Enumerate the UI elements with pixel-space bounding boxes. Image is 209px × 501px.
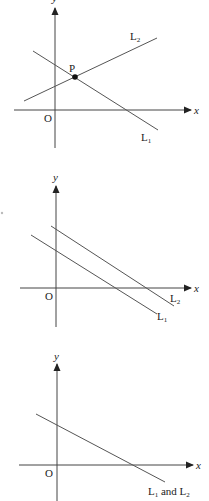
- diagram-panels: xyOL1L2PxyOL1L2xyOL1 and L2: [1, 0, 201, 501]
- y-axis-label: y: [53, 350, 59, 362]
- line-label-l1-and-l2: L1 and L2: [148, 485, 190, 499]
- line-l2: [51, 226, 174, 306]
- y-axis-label: y: [52, 171, 58, 183]
- line-label-l1: L1: [157, 310, 168, 324]
- intersection-point-p: [72, 74, 78, 80]
- origin-label: O: [45, 467, 53, 479]
- figure-canvas: xyOL1L2PxyOL1L2xyOL1 and L2: [0, 0, 209, 501]
- line-l1-and-l2: [36, 414, 165, 482]
- x-axis-label: x: [195, 459, 201, 471]
- line-l2: [24, 38, 157, 101]
- y-axis-label: y: [51, 0, 57, 4]
- stray-mark: [1, 212, 3, 214]
- x-axis-label: x: [193, 104, 199, 116]
- panel-parallel: xyOL1L2: [1, 171, 199, 327]
- x-axis-label: x: [193, 282, 199, 294]
- panel-intersecting: xyOL1L2P: [14, 0, 199, 148]
- line-l1: [31, 235, 157, 314]
- line-label-l1: L1: [141, 131, 152, 145]
- origin-label: O: [45, 290, 53, 302]
- line-label-l2: L2: [130, 30, 141, 44]
- panel-coincident: xyOL1 and L2: [19, 350, 201, 501]
- line-label-l2: L2: [170, 292, 181, 306]
- origin-label: O: [44, 112, 52, 124]
- point-label-p: P: [69, 62, 75, 74]
